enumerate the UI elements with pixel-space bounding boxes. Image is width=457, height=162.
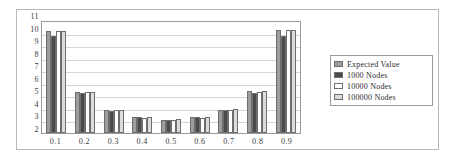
bar <box>176 119 181 133</box>
y-axis-tick-label: 11 <box>21 13 39 21</box>
bar-group <box>271 22 300 133</box>
y-axis-tick-label: 9 <box>21 38 39 46</box>
legend-swatch-icon <box>334 72 343 78</box>
x-axis-tick-label: 0.2 <box>70 137 99 149</box>
x-axis-tick-label: 0.5 <box>157 137 186 149</box>
legend-swatch-icon <box>334 61 343 67</box>
bar <box>205 117 210 133</box>
x-axis-tick-label: 0.1 <box>41 137 70 149</box>
bar-group <box>71 22 100 133</box>
x-axis-tick-label: 0.8 <box>243 137 272 149</box>
legend-label: 100000 Nodes <box>347 93 396 102</box>
legend-item: Expected Value <box>334 59 429 69</box>
x-axis-tick-label: 0.3 <box>99 137 128 149</box>
bar-chart-figure: 111098765432 0.10.20.30.40.50.60.70.80.9… <box>0 0 457 162</box>
bar-group <box>99 22 128 133</box>
bar-group <box>157 22 186 133</box>
y-axis-tick-label: 3 <box>21 113 39 121</box>
plot-area <box>41 21 301 134</box>
bar-group <box>42 22 71 133</box>
y-axis-tick-label: 4 <box>21 101 39 109</box>
legend-swatch-icon <box>334 83 343 89</box>
x-axis: 0.10.20.30.40.50.60.70.80.9 <box>41 137 301 149</box>
y-axis-tick-label: 8 <box>21 51 39 59</box>
x-axis-tick-label: 0.4 <box>128 137 157 149</box>
bar <box>233 109 238 133</box>
legend-swatch-icon <box>334 94 343 100</box>
y-axis-tick-label: 7 <box>21 63 39 71</box>
legend-label: 1000 Nodes <box>347 71 387 80</box>
bar-group <box>185 22 214 133</box>
bar <box>262 91 267 133</box>
bar <box>147 117 152 133</box>
legend-item: 10000 Nodes <box>334 81 429 91</box>
y-axis-tick-label: 6 <box>21 76 39 84</box>
legend-label: 10000 Nodes <box>347 82 392 91</box>
chart-legend: Expected Value1000 Nodes10000 Nodes10000… <box>330 55 433 106</box>
bar-group <box>128 22 157 133</box>
bar-group <box>243 22 272 133</box>
x-axis-tick-label: 0.6 <box>185 137 214 149</box>
bars-layer <box>42 22 300 133</box>
bar <box>90 92 95 133</box>
bar <box>291 30 296 133</box>
bar <box>119 110 124 133</box>
bar-group <box>214 22 243 133</box>
legend-item: 1000 Nodes <box>334 70 429 80</box>
y-axis-tick-label: 2 <box>21 126 39 134</box>
y-axis-tick-label: 10 <box>21 26 39 34</box>
x-axis-tick-label: 0.9 <box>272 137 301 149</box>
legend-item: 100000 Nodes <box>334 92 429 102</box>
y-axis-tick-label: 5 <box>21 88 39 96</box>
legend-label: Expected Value <box>347 60 400 69</box>
x-axis-tick-label: 0.7 <box>214 137 243 149</box>
bar <box>61 31 66 133</box>
y-axis: 111098765432 <box>21 17 39 135</box>
